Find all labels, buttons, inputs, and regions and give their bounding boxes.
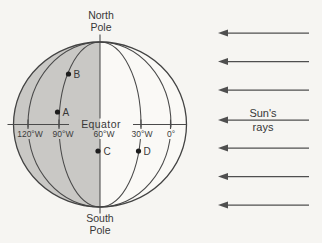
sun-ray-arrow-6 — [218, 173, 309, 180]
meridian-label-0: 0° — [167, 129, 175, 139]
meridian-label-90w: 90°W — [53, 129, 74, 139]
sun-ray-arrow-3 — [218, 87, 309, 94]
meridian-label-30w: 30°W — [132, 129, 153, 139]
south-pole-label-line2: Pole — [89, 224, 110, 236]
sun-ray-arrow-7 — [218, 202, 309, 209]
north-pole-label-line2: Pole — [90, 21, 111, 33]
meridian-label-120w: 120°W — [17, 129, 43, 139]
sun-rays-label-line1: Sun's — [249, 107, 277, 119]
point-c-dot — [95, 148, 100, 153]
sun-ray-arrow-1 — [218, 30, 309, 37]
point-b-label: B — [74, 69, 81, 80]
point-a-dot — [55, 109, 60, 114]
point-d-label: D — [144, 146, 151, 157]
point-a-label: A — [63, 107, 70, 118]
point-d-dot — [136, 148, 141, 153]
sun-ray-arrows — [218, 30, 309, 209]
point-b-dot — [66, 71, 71, 76]
south-pole-label-line1: South — [86, 212, 114, 224]
sun-ray-arrow-5 — [218, 145, 309, 152]
longitude-sun-rays-diagram: North Pole South Pole Equator 120°W 90°W… — [0, 0, 322, 243]
north-pole-label-line1: North — [88, 9, 114, 21]
meridian-label-60w: 60°W — [94, 129, 115, 139]
sun-rays-label-line2: rays — [253, 121, 274, 133]
sun-ray-arrow-2 — [218, 58, 309, 65]
point-c-label: C — [104, 146, 111, 157]
diagram-svg: North Pole South Pole Equator 120°W 90°W… — [0, 0, 322, 243]
